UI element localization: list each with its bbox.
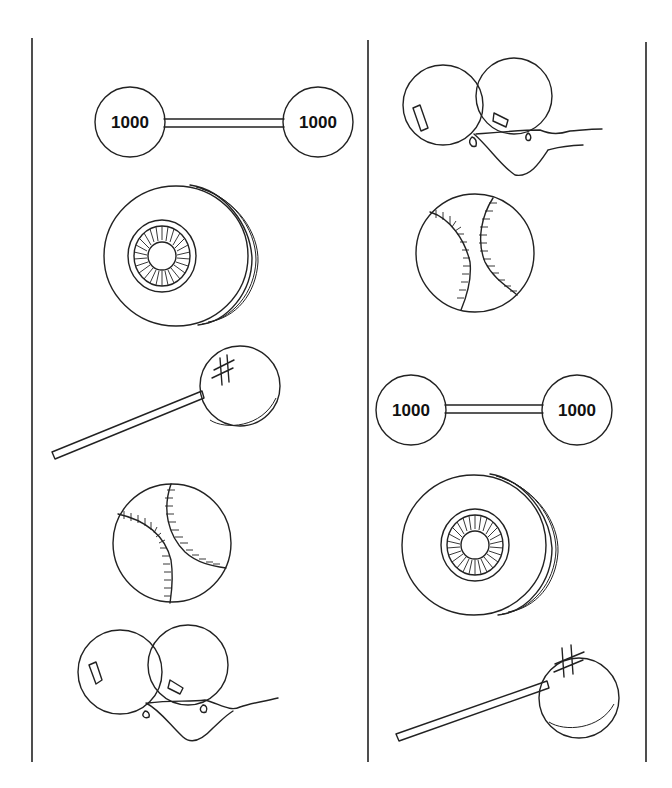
barbell-left: 1000 1000 <box>95 87 353 157</box>
lollipop-right <box>396 645 619 741</box>
tire-left <box>104 185 258 326</box>
tire-right <box>402 474 558 615</box>
balloons-left <box>78 625 278 741</box>
barbell-left-weight-right: 1000 <box>299 113 337 132</box>
baseball-right <box>416 194 534 312</box>
worksheet-canvas: 1000 1000 <box>0 0 672 788</box>
balloons-right <box>403 58 602 175</box>
barbell-right-weight-right: 1000 <box>558 401 596 420</box>
lollipop-left <box>52 346 280 459</box>
barbell-right: 1000 1000 <box>376 375 612 445</box>
barbell-right-weight-left: 1000 <box>392 401 430 420</box>
barbell-left-weight-left: 1000 <box>111 113 149 132</box>
baseball-left <box>113 484 231 603</box>
